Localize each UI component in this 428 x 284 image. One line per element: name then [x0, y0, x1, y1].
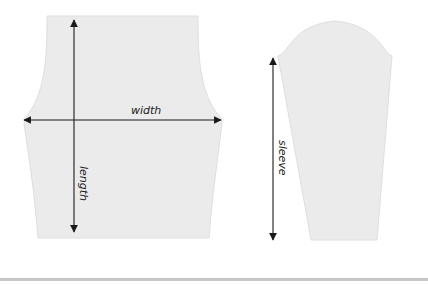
width-label: width — [131, 104, 161, 117]
sleeve-label: sleeve — [276, 140, 289, 176]
measurement-diagram: width length sleeve — [0, 0, 428, 284]
sleeve-piece-shape — [278, 21, 392, 240]
length-label: length — [77, 166, 90, 201]
divider-rule — [0, 278, 428, 281]
body-piece-shape — [24, 16, 222, 238]
